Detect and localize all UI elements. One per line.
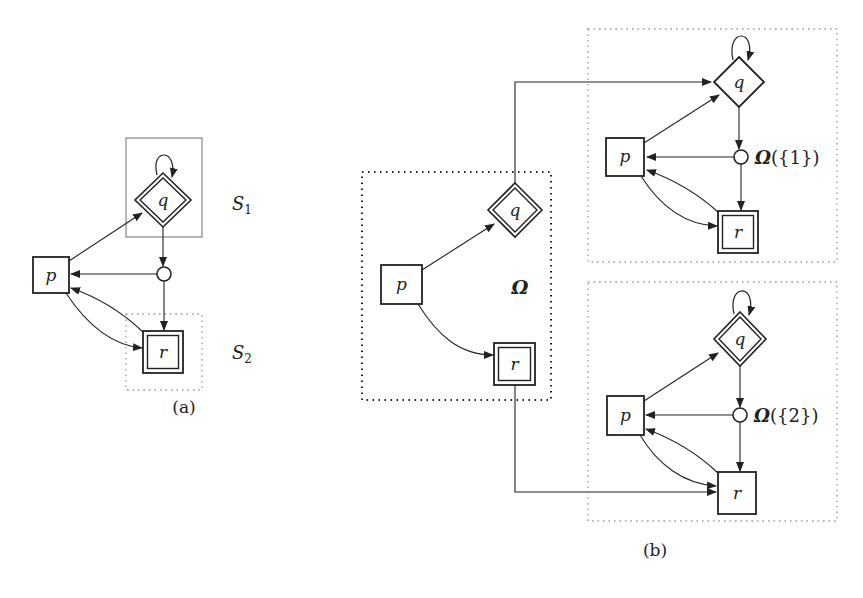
svg-text:p: p	[620, 405, 631, 425]
set-s1-label: S1	[232, 193, 252, 217]
game-graph-figure: q p r S1 S2 (a) q	[0, 0, 863, 598]
random-node	[157, 267, 171, 281]
omega-label-1: Ω({1})	[754, 147, 819, 168]
node-q: q	[135, 173, 191, 227]
node-p: p	[381, 265, 422, 304]
random-node	[734, 150, 748, 164]
svg-text:r: r	[733, 483, 742, 503]
svg-text:r: r	[510, 354, 519, 374]
self-loop-q	[733, 291, 751, 315]
node-p: p	[606, 138, 644, 176]
node-p: p	[607, 396, 644, 435]
svg-text:q: q	[510, 200, 521, 220]
panel-b-bottom-right: q Ω({2}) p r	[588, 282, 837, 521]
edge-p-r	[418, 304, 493, 355]
panel-b-left: q p r Ω	[362, 82, 716, 492]
svg-text:p: p	[396, 274, 407, 294]
omega-label-2: Ω({2})	[753, 405, 818, 426]
random-node	[733, 408, 747, 422]
caption-a: (a)	[172, 397, 195, 417]
svg-text:q: q	[734, 72, 745, 92]
edge-p-q	[422, 224, 494, 270]
edge-r-p	[646, 429, 718, 473]
node-q: q	[714, 57, 764, 107]
node-p: p	[33, 257, 69, 293]
svg-text:p: p	[46, 265, 57, 285]
svg-text:q: q	[735, 329, 746, 349]
node-q: q	[488, 183, 542, 237]
caption-b: (b)	[643, 540, 667, 560]
node-r: r	[143, 331, 183, 373]
edge-p-r	[640, 435, 716, 486]
node-r: r	[494, 343, 535, 385]
edge-p-q	[644, 95, 719, 143]
set-s2-label: S2	[232, 342, 252, 366]
edge-p-q	[644, 353, 718, 401]
svg-text:r: r	[734, 222, 743, 242]
edge-r-p	[71, 288, 143, 332]
node-r: r	[718, 472, 756, 514]
svg-text:p: p	[620, 146, 631, 166]
panel-a: q p r S1 S2 (a)	[33, 138, 252, 417]
edge-r-p	[647, 170, 718, 212]
panel-b-top-right: q Ω({1}) p r	[588, 29, 837, 262]
svg-text:q: q	[158, 190, 169, 210]
omega-region-label: Ω	[511, 276, 529, 298]
node-r: r	[718, 211, 758, 253]
node-q: q	[714, 312, 766, 366]
self-loop-q	[732, 36, 750, 60]
svg-text:r: r	[159, 342, 168, 362]
